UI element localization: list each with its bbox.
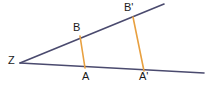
point-label-b: B (73, 22, 80, 33)
point-label-a: A (82, 71, 89, 82)
segment-b-to-a (80, 36, 85, 68)
geometry-figure: Z B B' A A' (0, 0, 217, 87)
point-label-a-prime: A' (139, 71, 148, 82)
point-label-z: Z (8, 55, 15, 66)
lower-ray (20, 63, 204, 73)
geometry-canvas (0, 0, 217, 87)
point-label-b-prime: B' (124, 2, 133, 13)
upper-ray (20, 4, 164, 63)
segment-bprime-to-aprime (133, 17, 144, 71)
